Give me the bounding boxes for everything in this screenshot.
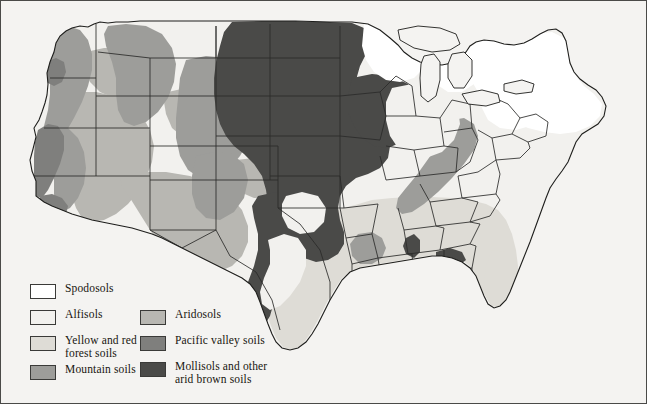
map-legend: Spodosols Alfisols Yellow and red forest…	[30, 282, 292, 386]
legend-label-spodosols: Spodosols	[65, 282, 114, 295]
legend-item-mollisols: Mollisols and other arid brown soils	[140, 360, 292, 385]
legend-item-spodosols: Spodosols	[30, 282, 158, 302]
legend-label-mollisols: Mollisols and other arid brown soils	[175, 360, 267, 385]
legend-label-pacific-valley-soils: Pacific valley soils	[175, 334, 265, 347]
aridosols-swatch	[140, 310, 166, 325]
alfisols-swatch	[30, 310, 56, 325]
legend-item-mountain-soils: Mountain soils	[30, 363, 158, 383]
mountain-soils-swatch	[30, 365, 56, 380]
legend-item-yellow-red-forest-soils: Yellow and red forest soils	[30, 334, 158, 359]
yellow-red-forest-soils-swatch	[30, 336, 56, 351]
legend-label-aridosols: Aridosols	[175, 308, 221, 321]
spodosols-swatch	[30, 284, 56, 299]
legend-label-yellow-red-forest-soils: Yellow and red forest soils	[65, 334, 137, 359]
legend-column-right: Aridosols Pacific valley soils Mollisols…	[140, 308, 292, 389]
legend-item-pacific-valley-soils: Pacific valley soils	[140, 334, 292, 354]
pacific-valley-soils-swatch	[140, 336, 166, 351]
legend-label-mountain-soils: Mountain soils	[65, 363, 136, 376]
legend-item-alfisols: Alfisols	[30, 308, 158, 328]
soil-map-figure: Spodosols Alfisols Yellow and red forest…	[0, 0, 647, 404]
legend-item-aridosols: Aridosols	[140, 308, 292, 328]
mollisols-swatch	[140, 362, 166, 377]
legend-column-left: Spodosols Alfisols Yellow and red forest…	[30, 282, 158, 389]
legend-label-alfisols: Alfisols	[65, 308, 103, 321]
